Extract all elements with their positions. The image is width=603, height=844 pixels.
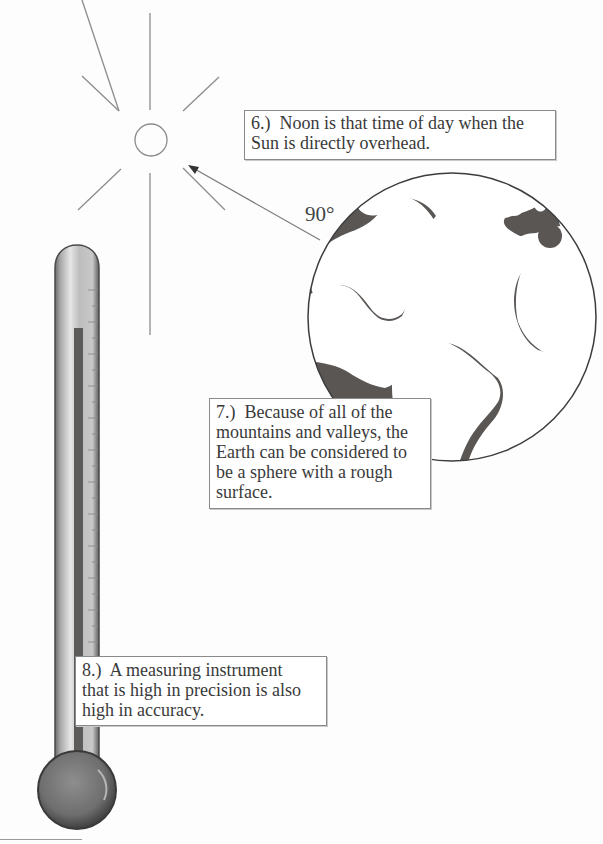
- statement-8-line-1: 8.) A measuring instrument: [82, 660, 320, 680]
- statement-6-line-2: Sun is directly overhead.: [251, 133, 549, 153]
- statement-8-box: 8.) A measuring instrument that is high …: [75, 656, 327, 726]
- angle-label-90-degrees: 90°: [305, 202, 334, 227]
- statement-6-box: 6.) Noon is that time of day when the Su…: [244, 110, 556, 160]
- statement-7-line-3: Earth can be considered to: [216, 442, 424, 462]
- statement-7-line-4: be a sphere with a rough: [216, 462, 424, 482]
- statement-7-line-5: surface.: [216, 482, 424, 502]
- statement-8-line-3: high in accuracy.: [82, 700, 320, 720]
- statement-8-line-2: that is high in precision is also: [82, 680, 320, 700]
- statement-6-line-1: 6.) Noon is that time of day when the: [251, 113, 549, 133]
- statement-7-box: 7.) Because of all of the mountains and …: [209, 398, 431, 509]
- footer-rule: [0, 839, 82, 840]
- statement-7-line-1: 7.) Because of all of the: [216, 402, 424, 422]
- thermometer-icon: [38, 245, 116, 829]
- statement-7-line-2: mountains and valleys, the: [216, 422, 424, 442]
